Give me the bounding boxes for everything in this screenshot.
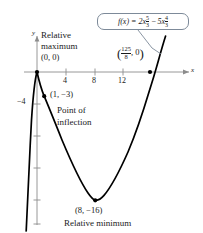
relative-minimum-text: Relative minimum bbox=[64, 218, 131, 228]
x-intercept-denominator: 8 bbox=[121, 53, 131, 61]
curve-left-branch bbox=[26, 72, 37, 231]
point-inflection bbox=[42, 94, 46, 98]
point-x-intercept bbox=[148, 70, 152, 74]
formula-minus: − bbox=[151, 17, 156, 26]
formula-term1-exp-num: 5 bbox=[146, 15, 149, 21]
formula-term1-coef: 2x bbox=[138, 17, 146, 26]
x-tick-label-12: 12 bbox=[118, 77, 126, 86]
point-relative-minimum bbox=[93, 198, 97, 202]
graph-canvas bbox=[0, 0, 203, 233]
relative-maximum-line2: maximum bbox=[41, 41, 78, 51]
y-axis-arrowhead bbox=[35, 36, 40, 42]
relative-minimum-point-label: (8, −16) bbox=[75, 206, 102, 216]
formula-equals: = bbox=[131, 17, 136, 26]
x-axis-arrowhead bbox=[183, 69, 189, 74]
formula-term2-exp-den: 3 bbox=[165, 21, 168, 28]
point-relative-maximum bbox=[35, 70, 39, 74]
graph-figure: f(x)=2x53−5x43 y x 4 8 12 −4 Relative ma… bbox=[0, 0, 203, 233]
formula-term2-exponent: 43 bbox=[165, 15, 168, 28]
formula-fx: f(x) bbox=[118, 17, 129, 26]
formula-term1-exp-den: 3 bbox=[146, 21, 149, 28]
x-intercept-numerator: 125 bbox=[121, 46, 131, 53]
formula-term2-exp-num: 4 bbox=[165, 15, 168, 21]
point-of-inflection-line1: Point of bbox=[57, 105, 86, 115]
relative-maximum-line1: Relative bbox=[41, 30, 71, 40]
function-formula-callout: f(x)=2x53−5x43 bbox=[97, 13, 189, 30]
x-tick-label-8: 8 bbox=[92, 77, 96, 86]
x-intercept-close-paren: ) bbox=[140, 46, 144, 61]
x-axis-label: x bbox=[191, 67, 194, 75]
x-intercept-label: (1258, 0) bbox=[117, 46, 144, 60]
y-axis-label: y bbox=[32, 30, 35, 38]
inflection-point-label: (1, −3) bbox=[50, 90, 73, 100]
point-of-inflection-line2: inflection bbox=[57, 117, 92, 127]
formula-term1-exponent: 53 bbox=[146, 15, 149, 28]
formula-term2-coef: 5x bbox=[157, 17, 165, 26]
x-intercept-comma-zero: , 0 bbox=[131, 47, 140, 57]
y-tick-label-minus4: −4 bbox=[17, 98, 26, 107]
relative-maximum-point-label: (0, 0) bbox=[41, 53, 59, 63]
x-tick-label-4: 4 bbox=[63, 77, 67, 86]
